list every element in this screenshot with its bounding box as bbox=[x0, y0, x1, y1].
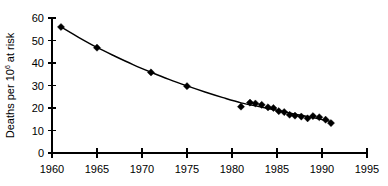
y-axis-title: Deaths per 106 at risk bbox=[4, 32, 16, 138]
fitted-curve bbox=[61, 27, 331, 122]
y-axis-title-text: Deaths per 106 at risk bbox=[4, 32, 16, 138]
data-point-marker bbox=[57, 23, 64, 30]
mortality-line-chart: 0102030405060196019651970197519801985199… bbox=[0, 0, 388, 186]
x-tick-label: 1995 bbox=[355, 163, 379, 175]
y-tick-label: 30 bbox=[32, 80, 44, 92]
y-tick-label: 0 bbox=[38, 147, 44, 159]
x-tick-label: 1980 bbox=[220, 163, 244, 175]
data-point-marker bbox=[147, 69, 154, 76]
x-tick-label: 1990 bbox=[310, 163, 334, 175]
data-point-group bbox=[57, 23, 334, 126]
x-tick-label: 1975 bbox=[175, 163, 199, 175]
data-point-marker bbox=[298, 113, 305, 120]
y-tick-label: 60 bbox=[32, 12, 44, 24]
x-tick-label: 1970 bbox=[130, 163, 154, 175]
y-tick-label: 10 bbox=[32, 125, 44, 137]
y-tick-label: 20 bbox=[32, 102, 44, 114]
y-tick-label: 40 bbox=[32, 57, 44, 69]
x-tick-label: 1960 bbox=[40, 163, 64, 175]
y-tick-label: 50 bbox=[32, 35, 44, 47]
data-point-marker bbox=[93, 44, 100, 51]
chart-container: 0102030405060196019651970197519801985199… bbox=[0, 0, 388, 186]
x-tick-label: 1985 bbox=[265, 163, 289, 175]
data-point-marker bbox=[183, 83, 190, 90]
x-tick-label: 1965 bbox=[85, 163, 109, 175]
